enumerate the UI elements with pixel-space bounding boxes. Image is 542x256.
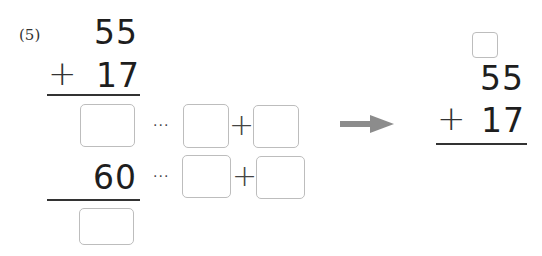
carry-box[interactable]	[472, 32, 498, 58]
problem-number: (5)	[19, 27, 40, 43]
left-plus-operator: +	[48, 55, 77, 91]
row2-addend-box-2[interactable]	[256, 156, 305, 199]
ellipsis-row-1: ···	[153, 118, 169, 132]
ellipsis-row-2: ···	[153, 169, 169, 183]
row1-plus-operator: +	[229, 110, 254, 140]
row1-addend-box-2[interactable]	[253, 105, 299, 148]
right-addend-bottom: 17	[481, 104, 525, 137]
right-plus-operator: +	[437, 100, 466, 136]
final-sum-box[interactable]	[79, 208, 134, 245]
row2-plus-operator: +	[232, 161, 257, 191]
left-final-sum-line	[47, 199, 140, 201]
right-arrow-icon	[340, 114, 394, 134]
right-addend-bottom-row: + 17	[437, 102, 529, 138]
left-addend-bottom-row: + 17	[48, 57, 138, 93]
partial-sum-box-1[interactable]	[80, 104, 135, 147]
left-addend-top: 55	[94, 16, 138, 49]
right-sum-line	[436, 143, 527, 145]
left-sum-line	[47, 94, 140, 96]
row2-addend-box-1[interactable]	[182, 155, 231, 198]
left-addend-bottom: 17	[96, 59, 140, 92]
row1-addend-box-1[interactable]	[183, 104, 229, 148]
right-addend-top: 55	[480, 62, 524, 95]
partial-sum-60: 60	[93, 161, 137, 194]
